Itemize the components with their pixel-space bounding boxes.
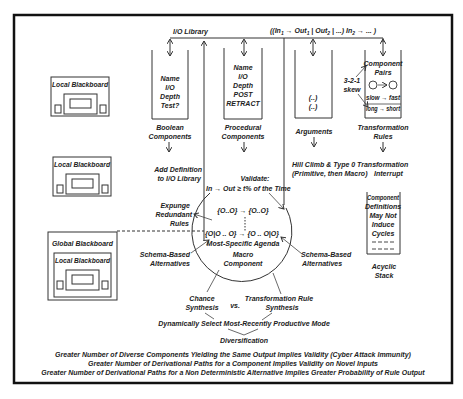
arguments-stack: (..) (..) Arguments <box>295 50 333 147</box>
expunge-label-2: Redundant <box>155 211 192 218</box>
io-library-formula: ((In1 → Out1 | Out2 | ...) In2 → ... ) <box>270 27 377 36</box>
expunge-label: Expunge <box>160 202 190 210</box>
schema-left-label: Schema-Based <box>140 251 191 258</box>
footer-statement-2: Greater Number of Derivational Paths for… <box>88 360 378 368</box>
local-blackboard-1: Local Blackboard <box>51 77 109 116</box>
svg-text:Component: Component <box>364 60 404 68</box>
interrupt-label: Interrupt <box>374 170 403 178</box>
svg-text:long → short: long → short <box>366 105 401 113</box>
svg-text:I/O: I/O <box>238 73 248 80</box>
svg-text:Components: Components <box>149 133 192 141</box>
svg-text:Boolean: Boolean <box>156 124 184 131</box>
svg-text:Arguments: Arguments <box>295 128 333 136</box>
svg-text:POST: POST <box>233 91 253 98</box>
diversification-label: Diversification <box>220 337 268 344</box>
svg-text:(..): (..) <box>309 103 318 111</box>
svg-text:May Not: May Not <box>369 212 397 220</box>
transformation-rules-stack: Component Pairs slow → fast long → short… <box>343 50 408 152</box>
macro-component-circle: {O..O} → {O..O} {O|O .. O} → {O .. O|O} … <box>192 193 292 282</box>
hill-climb-label: Hill Climb & Type 0 Transformation <box>292 161 408 169</box>
svg-text:Procedural: Procedural <box>225 124 263 131</box>
svg-text:Rules: Rules <box>373 133 392 140</box>
svg-text:Transformation: Transformation <box>357 124 408 131</box>
svg-text:Acyclic: Acyclic <box>371 263 397 271</box>
svg-text:Pairs: Pairs <box>374 69 391 76</box>
chance-synthesis-label-2: Synthesis <box>185 304 218 312</box>
validate-condition: In → Out ≥ t% of the Time <box>206 185 291 192</box>
svg-text:{O|O .. O} → {O .. O|O}: {O|O .. O} → {O .. O|O} <box>205 230 279 238</box>
svg-text:Local Blackboard: Local Blackboard <box>55 257 111 264</box>
svg-text:3-2-1: 3-2-1 <box>344 77 360 84</box>
io-library-label: I/O Library <box>173 28 209 36</box>
svg-text:Depth: Depth <box>233 82 253 90</box>
procedural-components-stack: Name I/O Depth POST RETRACT Procedural C… <box>222 48 265 152</box>
svg-text:Most-Specific Agenda: Most-Specific Agenda <box>207 240 280 248</box>
schema-left-label-2: Alternatives <box>149 260 190 267</box>
svg-text:Induce: Induce <box>372 221 395 228</box>
svg-text:Global Blackboard: Global Blackboard <box>52 240 114 247</box>
footer-statement-1: Greater Number of Diverse Components Yie… <box>55 351 411 359</box>
svg-text:(..): (..) <box>309 94 318 102</box>
svg-text:Components: Components <box>222 133 265 141</box>
vs-label: vs. <box>230 302 240 309</box>
svg-text:skew: skew <box>343 86 361 93</box>
svg-text:Component: Component <box>224 260 264 268</box>
svg-text:Test?: Test? <box>161 102 180 109</box>
svg-text:Definitions: Definitions <box>365 203 401 210</box>
acyclic-stack: Component Definitions May Not Induce Cyc… <box>365 192 401 279</box>
global-blackboard: Global Blackboard Local Blackboard <box>48 232 117 300</box>
boolean-components-stack: Name I/O Depth Test? Boolean Components <box>149 50 192 152</box>
svg-text:{O..O} → {O..O}: {O..O} → {O..O} <box>217 207 269 215</box>
svg-text:Stack: Stack <box>375 272 395 279</box>
schema-right-label: Schema-Based <box>301 251 352 258</box>
transformation-synthesis-label-2: Synthesis <box>265 304 298 312</box>
architecture-diagram: I/O Library ((In1 → Out1 | Out2 | ...) I… <box>0 0 463 399</box>
svg-text:Macro: Macro <box>233 251 254 258</box>
dynamic-select-label: Dynamically Select Most-Recently Product… <box>158 320 330 328</box>
bus-arrows <box>170 38 383 56</box>
svg-text:Local Blackboard: Local Blackboard <box>54 161 111 168</box>
footer-statement-3: Greater Number of Derivational Paths for… <box>41 369 425 377</box>
svg-text:Depth: Depth <box>160 93 180 101</box>
local-blackboard-2: Local Blackboard <box>53 157 111 196</box>
svg-text:Local Blackboard: Local Blackboard <box>52 81 109 88</box>
svg-text:Name: Name <box>160 75 179 82</box>
expunge-label-3: Rules <box>170 220 189 227</box>
hill-climb-label-2: (Primitive, then Macro) <box>292 170 368 178</box>
add-definition-label: Add Definition <box>153 166 202 173</box>
add-definition-label-2: to I/O Library <box>157 175 202 183</box>
svg-text:Component: Component <box>367 194 400 202</box>
svg-text:Name: Name <box>233 64 252 71</box>
chance-synthesis-label: Chance <box>189 295 214 302</box>
schema-right-label-2: Alternatives <box>301 260 342 267</box>
svg-text:Cycles: Cycles <box>372 230 395 238</box>
svg-text:RETRACT: RETRACT <box>226 100 260 107</box>
svg-text:I/O: I/O <box>165 84 175 91</box>
transformation-synthesis-label: Transformation Rule <box>245 295 313 302</box>
validate-label: Validate: <box>241 175 270 182</box>
svg-text:slow → fast: slow → fast <box>366 94 401 101</box>
